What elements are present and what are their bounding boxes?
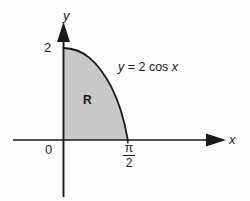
y-axis-label: y (63, 9, 70, 22)
x-axis-label: x (229, 133, 236, 146)
curve-equation-label: y = 2 cos x (118, 61, 178, 74)
equation-variable-x: x (172, 60, 178, 74)
equation-body: = 2 cos (124, 60, 172, 74)
region-label-R: R (83, 94, 92, 106)
fraction-denominator: 2 (120, 157, 138, 169)
x-axis-arrowhead (206, 134, 226, 147)
y-axis-arrowhead (57, 22, 70, 42)
y-tick-label-2: 2 (44, 41, 51, 54)
math-figure: y x 2 0 R y = 2 cos x π 2 (0, 0, 250, 201)
fraction-numerator: π (120, 142, 138, 154)
origin-label: 0 (45, 143, 52, 156)
x-tick-label-pi-over-two: π 2 (120, 142, 138, 169)
figure-canvas (0, 0, 250, 201)
